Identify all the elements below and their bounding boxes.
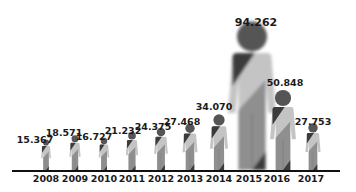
person-icon (182, 124, 197, 170)
person-icon (305, 123, 320, 170)
person-figures (41, 22, 321, 171)
person-icon (210, 114, 228, 170)
value-label: 27.468 (164, 116, 201, 127)
year-labels: 2008200920102011201220132014201520162017 (33, 173, 324, 184)
person-icon (228, 22, 276, 171)
year-label: 2010 (91, 173, 118, 184)
person-icon (154, 128, 168, 170)
year-label: 2015 (236, 173, 262, 184)
person-icon (99, 138, 109, 170)
year-label: 2017 (298, 173, 324, 184)
value-label: 34.070 (196, 101, 233, 112)
value-label: 27.753 (295, 116, 332, 127)
year-label: 2012 (148, 173, 174, 184)
year-label: 2016 (264, 173, 291, 184)
year-label: 2014 (206, 173, 233, 184)
year-label: 2011 (119, 173, 145, 184)
year-label: 2009 (62, 173, 88, 184)
year-label: 2008 (33, 173, 60, 184)
person-icon (126, 132, 138, 170)
pictogram-chart: 15.36718.57116.72721.23224.37527.46834.0… (0, 0, 356, 192)
value-label: 50.848 (267, 77, 304, 88)
year-label: 2013 (177, 173, 203, 184)
value-label: 94.262 (235, 16, 277, 29)
